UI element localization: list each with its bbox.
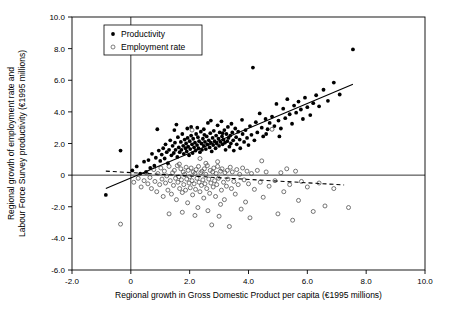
point-productivity: [210, 150, 214, 154]
point-productivity: [204, 147, 208, 151]
point-productivity: [338, 93, 342, 97]
point-employment-rate: [222, 180, 226, 184]
point-productivity: [221, 131, 225, 135]
point-productivity: [326, 99, 330, 103]
point-productivity: [305, 105, 309, 109]
point-productivity: [196, 135, 200, 139]
point-productivity: [175, 123, 179, 127]
point-productivity: [230, 122, 234, 126]
point-productivity: [160, 153, 164, 157]
point-employment-rate: [230, 170, 234, 174]
point-productivity: [158, 159, 162, 163]
point-employment-rate: [158, 183, 162, 187]
x-tick-label: -2.0: [65, 277, 79, 286]
point-employment-rate: [239, 207, 243, 211]
point-productivity: [168, 138, 172, 142]
point-productivity: [202, 127, 206, 131]
point-employment-rate: [167, 164, 171, 168]
point-employment-rate: [332, 187, 336, 191]
point-employment-rate: [270, 127, 274, 131]
point-productivity: [281, 107, 285, 111]
point-productivity: [288, 112, 292, 116]
point-productivity: [279, 127, 283, 131]
y-tick-label: -2.0: [51, 203, 65, 212]
point-productivity: [317, 104, 321, 108]
point-productivity: [303, 96, 307, 100]
point-productivity: [283, 116, 287, 120]
point-productivity: [154, 156, 158, 160]
chart-legend: ProductivityEmployment rate: [104, 25, 202, 55]
point-productivity: [104, 193, 108, 197]
point-employment-rate: [180, 210, 184, 214]
point-productivity: [155, 127, 159, 131]
point-productivity: [251, 66, 255, 70]
point-employment-rate: [168, 179, 172, 183]
point-employment-rate: [223, 171, 227, 175]
point-employment-rate: [219, 188, 223, 192]
point-employment-rate: [146, 182, 150, 186]
y-tick-label: 2.0: [54, 140, 66, 149]
point-productivity: [184, 142, 188, 146]
point-employment-rate: [305, 185, 309, 189]
y-tick-label: 6.0: [54, 76, 66, 85]
point-employment-rate: [206, 209, 210, 213]
point-employment-rate: [229, 187, 233, 191]
point-productivity: [195, 126, 199, 130]
point-productivity: [147, 158, 151, 162]
y-axis-tick-labels: -6.0-4.0-2.002.04.06.08.010.0: [49, 13, 65, 275]
point-employment-rate: [196, 206, 200, 210]
point-employment-rate: [136, 176, 140, 180]
point-employment-rate: [208, 191, 212, 195]
point-productivity: [130, 168, 134, 172]
point-productivity: [308, 113, 312, 117]
point-employment-rate: [347, 206, 351, 210]
point-employment-rate: [188, 186, 192, 190]
point-employment-rate: [190, 128, 194, 132]
point-employment-rate: [166, 188, 170, 192]
point-employment-rate: [235, 168, 239, 172]
point-productivity: [188, 147, 192, 151]
point-employment-rate: [260, 159, 264, 163]
point-productivity: [179, 140, 183, 144]
point-productivity: [301, 117, 305, 121]
point-employment-rate: [288, 183, 292, 187]
point-productivity: [332, 81, 336, 85]
point-productivity: [119, 149, 123, 153]
point-employment-rate: [160, 177, 164, 181]
point-employment-rate: [193, 213, 197, 217]
point-employment-rate: [255, 168, 259, 172]
point-employment-rate: [153, 179, 157, 183]
y-tick-label: 0: [61, 171, 66, 180]
point-productivity: [314, 93, 318, 97]
point-employment-rate: [297, 198, 301, 202]
point-employment-rate: [238, 172, 242, 176]
point-productivity: [211, 136, 215, 140]
point-employment-rate: [203, 182, 207, 186]
point-productivity: [238, 146, 242, 150]
point-employment-rate: [222, 198, 226, 202]
point-productivity: [277, 119, 281, 123]
point-employment-rate: [194, 187, 198, 191]
scatter-chart: -2.002.04.06.08.010.0 -6.0-4.0-2.002.04.…: [0, 0, 451, 318]
point-productivity: [260, 126, 264, 130]
point-productivity: [214, 146, 218, 150]
point-productivity: [142, 160, 146, 164]
point-productivity: [231, 138, 235, 142]
legend-label: Productivity: [121, 29, 166, 39]
point-productivity: [261, 134, 265, 138]
point-productivity: [135, 165, 139, 169]
axis-ticks: [68, 17, 425, 274]
y-axis-label-line1: Regional growth of employment rate and: [6, 67, 16, 220]
point-employment-rate: [182, 183, 186, 187]
point-employment-rate: [258, 180, 262, 184]
point-productivity: [225, 132, 229, 136]
point-employment-rate: [252, 187, 256, 191]
point-productivity: [220, 119, 224, 123]
point-productivity: [247, 143, 251, 147]
point-productivity: [191, 137, 195, 141]
point-productivity: [173, 141, 177, 145]
point-productivity: [235, 142, 239, 146]
point-employment-rate: [215, 183, 219, 187]
point-employment-rate: [204, 172, 208, 176]
point-productivity: [240, 118, 244, 122]
